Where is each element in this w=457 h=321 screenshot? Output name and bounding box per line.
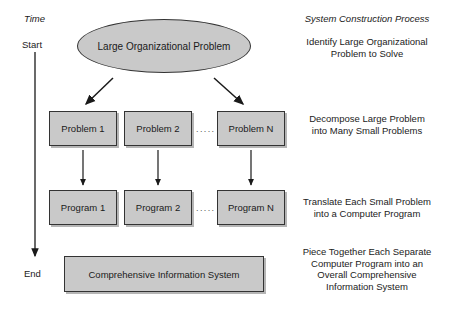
node-comprehensive-information-system: Comprehensive Information System <box>64 256 264 292</box>
node-label: Program 2 <box>136 202 180 213</box>
node-label: Program N <box>228 202 274 213</box>
process-step-2: Decompose Large Problem into Many Small … <box>288 113 446 136</box>
node-large-organizational-problem: Large Organizational Problem <box>77 19 251 73</box>
process-step-3: Translate Each Small Problem into a Comp… <box>288 196 446 219</box>
node-problem-2: Problem 2 <box>124 111 192 146</box>
node-program-n: Program N <box>217 190 285 225</box>
process-step-4: Piece Together Each Separate Computer Pr… <box>288 246 446 292</box>
node-problem-n: Problem N <box>217 111 285 146</box>
process-column-title: System Construction Process <box>292 13 442 24</box>
node-label: Problem 2 <box>136 123 179 134</box>
node-label: Comprehensive Information System <box>88 269 239 280</box>
time-axis-title: Time <box>24 13 45 24</box>
arrow-root-to-problem-n <box>214 78 243 104</box>
node-label: Problem N <box>229 123 274 134</box>
time-axis-start-label: Start <box>22 39 42 50</box>
node-problem-1: Problem 1 <box>49 111 117 146</box>
node-program-2: Program 2 <box>124 190 192 225</box>
node-label: Problem 1 <box>61 123 104 134</box>
process-step-1: Identify Large Organizational Problem to… <box>288 36 446 59</box>
node-program-1: Program 1 <box>49 190 117 225</box>
time-axis-end-label: End <box>24 268 41 279</box>
ellipsis-programs: ..... <box>196 203 216 213</box>
arrow-root-to-problem-1 <box>86 78 113 104</box>
node-label: Large Organizational Problem <box>98 41 231 52</box>
ellipsis-problems: ..... <box>196 124 216 134</box>
system-construction-diagram: Time Start End System Construction Proce… <box>0 0 457 321</box>
node-label: Program 1 <box>61 202 105 213</box>
